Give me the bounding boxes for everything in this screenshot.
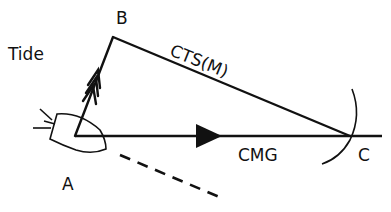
point-a-label: A — [62, 176, 74, 193]
cmg-arrowhead-icon — [196, 124, 222, 148]
tide-label: Tide — [8, 46, 44, 63]
dashed-track-line — [120, 155, 224, 199]
diagram-canvas: Tide B A C CMG CTS(M) — [0, 0, 391, 212]
cts-vector — [113, 37, 350, 136]
diagram-svg — [0, 0, 391, 212]
tide-vector — [75, 37, 113, 136]
point-c-label: C — [358, 147, 370, 164]
cmg-label: CMG — [238, 147, 278, 164]
point-b-label: B — [116, 10, 128, 27]
boat-icon — [33, 109, 106, 152]
